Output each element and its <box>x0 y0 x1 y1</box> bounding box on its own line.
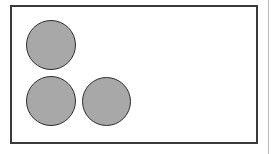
figure-canvas <box>0 0 272 154</box>
circle-shape-1 <box>26 20 76 70</box>
circle-shape-2 <box>26 76 76 126</box>
figure-frame <box>10 5 258 144</box>
circle-shape-3 <box>82 77 131 126</box>
page-edge-line <box>268 0 269 154</box>
